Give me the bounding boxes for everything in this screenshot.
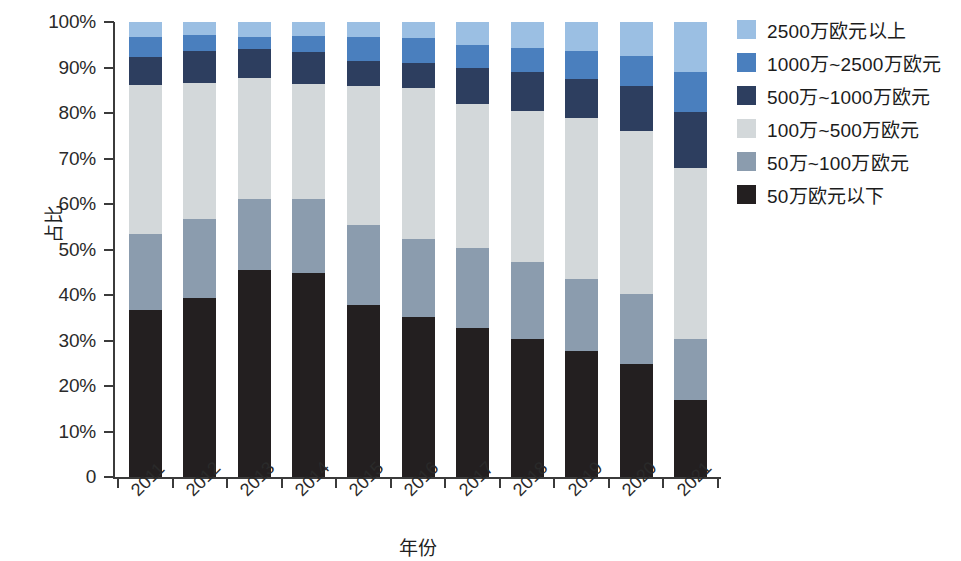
bar-segment[interactable] xyxy=(511,111,544,262)
y-tick-mark xyxy=(104,158,114,160)
bar-segment[interactable] xyxy=(183,83,216,219)
y-tick-label: 10% xyxy=(28,422,96,441)
bar-segment[interactable] xyxy=(129,85,162,235)
bar-segment[interactable] xyxy=(456,45,489,68)
bar-segment[interactable] xyxy=(402,88,435,239)
bar-segment[interactable] xyxy=(183,219,216,298)
legend-label: 50万欧元以下 xyxy=(767,181,885,208)
y-tick-mark xyxy=(104,21,114,23)
bar-segment[interactable] xyxy=(238,37,271,48)
bar-segment[interactable] xyxy=(456,68,489,104)
bar-segment[interactable] xyxy=(620,131,653,293)
bar-segment[interactable] xyxy=(183,22,216,35)
bar-segment[interactable] xyxy=(347,61,380,86)
chart-legend: 2500万欧元以上1000万~2500万欧元500万~1000万欧元100万~5… xyxy=(737,13,961,211)
x-tick-mark xyxy=(499,479,501,488)
bar-group[interactable] xyxy=(402,22,435,477)
bar-segment[interactable] xyxy=(129,57,162,85)
bar-group[interactable] xyxy=(292,22,325,477)
legend-swatch-icon xyxy=(737,20,756,39)
bar-segment[interactable] xyxy=(620,86,653,132)
bar-segment[interactable] xyxy=(183,35,216,50)
bar-segment[interactable] xyxy=(456,328,489,477)
bar-segment[interactable] xyxy=(292,36,325,51)
bar-segment[interactable] xyxy=(238,78,271,198)
legend-item[interactable]: 50万欧元以下 xyxy=(737,178,961,211)
bar-segment[interactable] xyxy=(183,298,216,477)
bar-group[interactable] xyxy=(183,22,216,477)
bar-segment[interactable] xyxy=(674,112,707,168)
bar-segment[interactable] xyxy=(292,84,325,198)
bar-group[interactable] xyxy=(238,22,271,477)
x-tick-mark xyxy=(553,479,555,488)
bar-segment[interactable] xyxy=(292,273,325,477)
bar-segment[interactable] xyxy=(402,38,435,63)
bar-segment[interactable] xyxy=(292,199,325,274)
bar-segment[interactable] xyxy=(292,22,325,36)
legend-label: 50万~100万欧元 xyxy=(767,148,909,175)
bar-segment[interactable] xyxy=(402,22,435,38)
bar-group[interactable] xyxy=(674,22,707,477)
bar-segment[interactable] xyxy=(238,22,271,37)
y-tick-mark xyxy=(104,340,114,342)
bar-segment[interactable] xyxy=(238,270,271,477)
x-tick-mark xyxy=(335,479,337,488)
x-tick-mark xyxy=(390,479,392,488)
bar-segment[interactable] xyxy=(402,63,435,88)
bar-segment[interactable] xyxy=(511,262,544,339)
bar-segment[interactable] xyxy=(347,225,380,305)
legend-item[interactable]: 100万~500万欧元 xyxy=(737,112,961,145)
bar-segment[interactable] xyxy=(292,52,325,85)
bar-segment[interactable] xyxy=(347,86,380,226)
bar-segment[interactable] xyxy=(402,239,435,317)
legend-item[interactable]: 1000万~2500万欧元 xyxy=(737,46,961,79)
legend-item[interactable]: 500万~1000万欧元 xyxy=(737,79,961,112)
bar-group[interactable] xyxy=(129,22,162,477)
bar-group[interactable] xyxy=(456,22,489,477)
bar-segment[interactable] xyxy=(674,22,707,72)
legend-item[interactable]: 2500万欧元以上 xyxy=(737,13,961,46)
bar-segment[interactable] xyxy=(129,310,162,477)
bar-segment[interactable] xyxy=(347,37,380,61)
legend-label: 1000万~2500万欧元 xyxy=(767,49,941,76)
bar-group[interactable] xyxy=(511,22,544,477)
legend-swatch-icon xyxy=(737,53,756,72)
bar-segment[interactable] xyxy=(565,22,598,51)
bar-segment[interactable] xyxy=(129,37,162,57)
bar-segment[interactable] xyxy=(565,279,598,351)
bar-segment[interactable] xyxy=(456,104,489,248)
bar-segment[interactable] xyxy=(511,48,544,72)
bar-segment[interactable] xyxy=(456,22,489,45)
bar-segment[interactable] xyxy=(565,51,598,80)
bar-group[interactable] xyxy=(565,22,598,477)
bar-segment[interactable] xyxy=(238,49,271,79)
bar-segment[interactable] xyxy=(620,22,653,56)
bar-segment[interactable] xyxy=(565,118,598,279)
bar-segment[interactable] xyxy=(129,22,162,37)
bar-segment[interactable] xyxy=(456,248,489,328)
bar-segment[interactable] xyxy=(402,317,435,477)
legend-swatch-icon xyxy=(737,86,756,105)
bar-segment[interactable] xyxy=(620,56,653,86)
bar-segment[interactable] xyxy=(674,72,707,112)
bar-group[interactable] xyxy=(347,22,380,477)
y-tick-mark xyxy=(104,294,114,296)
bar-segment[interactable] xyxy=(565,79,598,117)
bar-segment[interactable] xyxy=(238,199,271,270)
plot-area xyxy=(118,22,718,477)
bar-segment[interactable] xyxy=(347,305,380,477)
bar-group[interactable] xyxy=(620,22,653,477)
bar-segment[interactable] xyxy=(183,51,216,84)
bar-segment[interactable] xyxy=(674,339,707,400)
legend-item[interactable]: 50万~100万欧元 xyxy=(737,145,961,178)
bar-segment[interactable] xyxy=(511,72,544,111)
y-tick-mark xyxy=(104,431,114,433)
bar-segment[interactable] xyxy=(347,22,380,37)
bar-segment[interactable] xyxy=(511,339,544,477)
bar-segment[interactable] xyxy=(674,168,707,340)
bar-segment[interactable] xyxy=(129,234,162,309)
legend-label: 500万~1000万欧元 xyxy=(767,82,930,109)
y-axis-title: 占比 xyxy=(39,164,66,284)
bar-segment[interactable] xyxy=(620,294,653,365)
bar-segment[interactable] xyxy=(511,22,544,48)
